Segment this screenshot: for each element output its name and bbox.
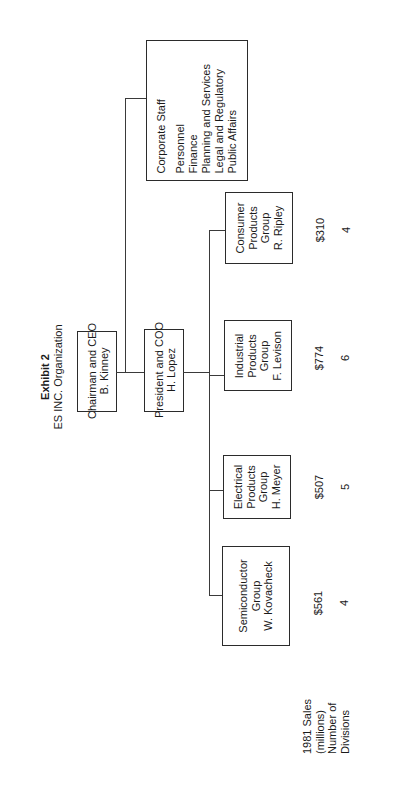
corporate-staff-item: Legal and Regulatory	[213, 69, 226, 174]
group-name: Electrical	[232, 465, 245, 510]
divisions-industrial: 6	[336, 348, 354, 368]
group-name: Industrial	[233, 334, 246, 379]
sales-label-line2: (millions)	[314, 710, 327, 754]
row-labels: 1981 Sales (millions) Number of Division…	[298, 688, 354, 754]
consumer-group-text: Consumer Products Group R. Ripley	[225, 192, 293, 264]
president-name: H. Lopez	[165, 348, 178, 392]
group-name: Group	[250, 581, 263, 612]
divisions-value: 5	[339, 484, 352, 490]
group-name: Group	[259, 213, 272, 244]
connector-to-consumer	[209, 230, 225, 231]
corporate-staff-item: Planning and Services	[200, 64, 213, 173]
sales-value: $507	[313, 475, 326, 499]
semiconductor-group-text: Semiconductor Group W. Kovacheck	[222, 546, 290, 646]
connector-trunk-vertical	[125, 98, 126, 373]
sales-value: $561	[312, 591, 325, 615]
group-head: W. Kovacheck	[262, 561, 275, 631]
divisions-value: 4	[338, 600, 351, 606]
connector-to-semiconductor	[209, 595, 223, 596]
group-name: Products	[245, 334, 258, 377]
corporate-staff-heading: Corporate Staff	[155, 99, 168, 173]
group-name: Group	[258, 341, 271, 372]
divisions-value: 4	[340, 227, 353, 233]
chairman-text: Chairman and CEO B. Kinney	[78, 331, 118, 412]
sales-label-line1: 1981 Sales	[301, 699, 314, 754]
sales-value: $310	[314, 218, 327, 242]
electrical-group-text: Electrical Products Group H. Meyer	[223, 455, 291, 519]
divisions-consumer: 4	[337, 220, 355, 240]
corporate-staff-item: Public Affairs	[226, 110, 239, 173]
connector-group-bus	[209, 230, 210, 596]
divisions-semiconductor: 4	[335, 593, 353, 613]
exhibit-label: Exhibit 2	[39, 354, 52, 400]
sales-value-consumer: $310	[311, 210, 329, 250]
group-name: Consumer	[234, 203, 247, 254]
group-head: F. Levison	[270, 331, 283, 381]
group-name: Group	[257, 472, 270, 503]
divisions-label-line2: Divisions	[339, 710, 352, 754]
president-role: President and COO	[152, 322, 165, 418]
group-head: R. Ripley	[272, 206, 285, 251]
sales-value-semiconductor: $561	[309, 583, 327, 623]
chairman-name: B. Kinney	[98, 347, 111, 394]
sales-value-electrical: $507	[310, 467, 328, 507]
group-name: Products	[245, 465, 258, 508]
connector-to-electrical	[209, 490, 223, 491]
corporate-staff-item: Finance	[187, 134, 200, 173]
connector-to-industrial	[209, 375, 224, 376]
chart-title: Exhibit 2 ES INC. Organization	[37, 307, 67, 447]
industrial-group-text: Industrial Products Group F. Levison	[224, 321, 292, 392]
sales-value-industrial: $774	[310, 338, 328, 378]
group-head: H. Meyer	[270, 465, 283, 510]
chart-subtitle: ES INC. Organization	[52, 324, 65, 429]
connector-chairman-to-trunk	[116, 372, 144, 373]
group-name: Products	[247, 206, 260, 249]
sales-value: $774	[313, 346, 326, 370]
chairman-role: Chairman and CEO	[85, 323, 98, 419]
connector-president-to-bus	[183, 372, 210, 373]
corporate-staff-item: Personnel	[174, 124, 187, 174]
divisions-electrical: 5	[336, 477, 354, 497]
divisions-label-line1: Number of	[326, 703, 339, 754]
group-name: Semiconductor	[237, 559, 250, 632]
president-text: President and COO H. Lopez	[145, 329, 185, 412]
connector-to-corporate-staff	[125, 98, 147, 99]
divisions-value: 6	[339, 355, 352, 361]
corporate-staff-text: Corporate Staff Personnel Finance Planni…	[146, 41, 248, 182]
